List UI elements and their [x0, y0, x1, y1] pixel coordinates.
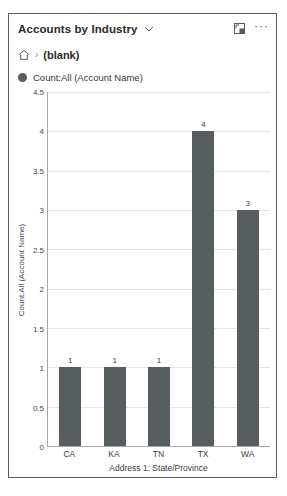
x-axis-tick-label: TX — [181, 449, 226, 459]
y-axis-title-text: Count:All (Account Name) — [17, 223, 26, 315]
legend-label[interactable]: Count:All (Account Name) — [33, 72, 143, 83]
header-actions: ··· — [234, 22, 269, 35]
bar[interactable] — [237, 210, 259, 446]
x-axis-tick-labels: CAKATNTXWA — [47, 447, 270, 461]
chart-area: Count:All (Account Name) 00.511.522.533.… — [9, 88, 276, 477]
bar[interactable] — [104, 367, 126, 446]
breadcrumb: › (blank) — [9, 43, 276, 66]
y-axis-tick-label: 4.5 — [33, 88, 44, 97]
x-axis-tick-label: TN — [136, 449, 181, 459]
chart-card: Accounts by Industry ··· — [8, 13, 277, 478]
bar-slot: 1 — [92, 92, 136, 446]
breadcrumb-separator: › — [35, 49, 38, 60]
bar[interactable] — [59, 367, 81, 446]
legend-swatch — [18, 73, 27, 82]
bar-slot: 1 — [48, 92, 92, 446]
y-axis-tick-label: 4 — [40, 127, 44, 136]
bar-value-label: 1 — [112, 356, 116, 365]
x-axis-title: Address 1: State/Province — [47, 461, 270, 475]
bar-value-label: 3 — [246, 199, 250, 208]
bar[interactable] — [148, 367, 170, 446]
bar-value-label: 4 — [201, 120, 205, 129]
home-icon[interactable] — [18, 49, 30, 61]
more-options-icon[interactable]: ··· — [254, 22, 269, 35]
bar[interactable] — [192, 131, 214, 446]
expand-icon[interactable] — [234, 23, 245, 34]
bar-series: 11143 — [48, 92, 270, 446]
page-title: Accounts by Industry — [18, 23, 138, 35]
chevron-down-icon[interactable] — [144, 24, 154, 34]
x-axis-tick-label: WA — [225, 449, 270, 459]
card-header: Accounts by Industry ··· — [9, 14, 276, 43]
bar-value-label: 1 — [157, 356, 161, 365]
breadcrumb-current[interactable]: (blank) — [43, 49, 79, 61]
bar-slot: 1 — [137, 92, 181, 446]
y-axis-tick-label: 3.5 — [33, 166, 44, 175]
y-axis-tick-label: 0.5 — [33, 403, 44, 412]
chart-legend: Count:All (Account Name) — [9, 66, 276, 88]
y-axis-tick-label: 0 — [40, 443, 44, 452]
x-axis-tick-label: CA — [47, 449, 92, 459]
y-axis-title: Count:All (Account Name) — [15, 92, 27, 447]
y-axis-tick-label: 1 — [40, 364, 44, 373]
y-axis-tick-label: 2.5 — [33, 245, 44, 254]
y-axis-ticks: 00.511.522.533.544.5 — [27, 92, 47, 447]
bar-slot: 3 — [226, 92, 270, 446]
x-axis-tick-label: KA — [92, 449, 137, 459]
y-axis-tick-label: 2 — [40, 285, 44, 294]
bar-slot: 4 — [181, 92, 225, 446]
bar-value-label: 1 — [68, 356, 72, 365]
plot-area: 11143 — [47, 92, 270, 447]
y-axis-tick-label: 1.5 — [33, 324, 44, 333]
y-axis-tick-label: 3 — [40, 206, 44, 215]
